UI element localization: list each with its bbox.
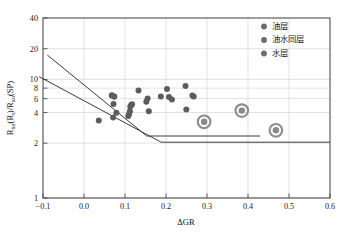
y-title-p4: (SP): [5, 81, 15, 96]
scatter-chart: 40 20 10 8 6 4 2 1 −0.1 0.0 0.1 0.2 0.3: [0, 0, 355, 242]
x-axis-title: ΔGR: [177, 217, 195, 227]
data-point: [96, 118, 102, 124]
chart-figure: 40 20 10 8 6 4 2 1 −0.1 0.0 0.1 0.2 0.3: [0, 0, 355, 242]
data-point: [111, 94, 117, 100]
data-point: [158, 94, 164, 100]
x-tick-label: 0.4: [243, 202, 253, 211]
data-point: [183, 107, 189, 113]
data-point: [136, 87, 142, 93]
legend-marker-oil-water: [261, 37, 267, 43]
data-point: [183, 83, 189, 89]
data-point: [146, 108, 152, 114]
legend-label-oil-water: 油水同层: [272, 34, 304, 44]
y-tick-label: 20: [30, 45, 38, 54]
legend-label-oil: 油层: [272, 21, 288, 31]
legend-label-water: 水层: [272, 48, 288, 58]
legend-marker-water: [261, 51, 267, 57]
y-title-p2: (R: [5, 115, 15, 124]
data-point: [164, 86, 170, 92]
legend-marker-oil: [261, 24, 267, 30]
data-point: [111, 101, 117, 107]
x-tick-label: 0.3: [202, 202, 212, 211]
y-title-p3: )/R: [5, 102, 15, 113]
y-tick-label: 40: [30, 14, 38, 23]
data-point: [239, 107, 245, 113]
data-point: [201, 119, 207, 125]
data-point: [113, 110, 119, 116]
data-point: [273, 127, 279, 133]
x-tick-label: −0.1: [36, 202, 51, 211]
y-tick-label: 6: [34, 95, 38, 104]
y-axis-title: Rxo(Rt)/Rxo(SP): [5, 81, 16, 136]
x-tick-label: 0.0: [79, 202, 89, 211]
svg-text:Rxo(Rt)/Rxo(SP): Rxo(Rt)/Rxo(SP): [5, 81, 16, 136]
data-point: [129, 101, 135, 107]
x-tick-label: 0.6: [325, 202, 335, 211]
y-tick-label: 8: [34, 84, 38, 93]
x-tick-labels: −0.1 0.0 0.1 0.2 0.3 0.4 0.5 0.6: [36, 202, 336, 211]
y-tick-label: 4: [34, 109, 38, 118]
data-point: [169, 96, 175, 102]
data-point: [191, 94, 197, 100]
x-tick-label: 0.5: [284, 202, 294, 211]
x-tick-label: 0.2: [161, 202, 171, 211]
y-tick-label: 2: [34, 139, 38, 148]
y-tick-labels: 40 20 10 8 6 4 2 1: [30, 14, 38, 203]
data-point: [145, 96, 151, 102]
x-tick-label: 0.1: [120, 202, 130, 211]
y-tick-label: 10: [30, 75, 38, 84]
